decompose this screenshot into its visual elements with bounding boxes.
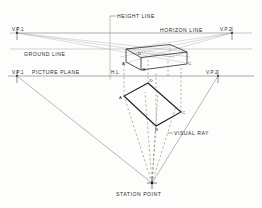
vp2-horizon-label: V.P.2 bbox=[220, 27, 232, 32]
hl-label: H.L bbox=[111, 70, 119, 75]
plan-label-d: D bbox=[150, 78, 153, 83]
box-label-b: B bbox=[143, 67, 146, 72]
drawing-canvas: HORIZON LINE GROUND LINE HEIGHT LINE PIC… bbox=[0, 0, 262, 208]
box-label-d: D bbox=[138, 51, 141, 56]
station-point-label: STATION POINT bbox=[116, 191, 161, 197]
picture-plane-label: PICTURE PLANE bbox=[32, 69, 80, 75]
plan-label-c: C bbox=[182, 110, 185, 115]
station-point-dot bbox=[151, 182, 153, 184]
visual-ray-label: VISUAL RAY bbox=[174, 130, 209, 136]
vp1-plane-label: V.P.1 bbox=[12, 70, 24, 75]
perspective-diagram: HORIZON LINE GROUND LINE HEIGHT LINE PIC… bbox=[0, 0, 262, 208]
horizon-line-label: HORIZON LINE bbox=[160, 27, 203, 33]
height-line-label: HEIGHT LINE bbox=[117, 13, 155, 19]
vp2-plane-label: V.P.2 bbox=[206, 70, 218, 75]
plan-label-a: A bbox=[119, 95, 122, 100]
visual-ray-callout: VISUAL RAY bbox=[168, 130, 209, 136]
box-label-c: C bbox=[188, 61, 191, 66]
ground-line-label: GROUND LINE bbox=[24, 51, 65, 57]
vp1-horizon-label: V.P.1 bbox=[12, 27, 24, 32]
box-label-a: A bbox=[122, 61, 125, 66]
